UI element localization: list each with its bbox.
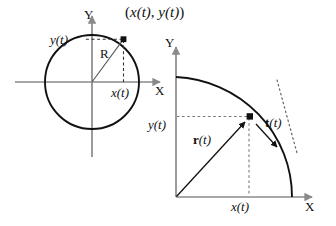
- left-panel-group: [15, 16, 160, 157]
- left-point-x-text: x(t): [130, 4, 151, 20]
- right-axis-y-label: Y: [165, 36, 174, 49]
- left-point-marker: [121, 36, 127, 42]
- left-point-coordinate-label: (x(t), y(t)): [125, 5, 184, 20]
- left-axis-y-label: Y: [84, 8, 93, 21]
- right-point-marker: [247, 113, 253, 119]
- figure-root: Y X (x(t), y(t)) y(t) R x(t) Y X y(t) x(…: [0, 0, 336, 226]
- left-y-projection-label: y(t): [50, 33, 68, 46]
- left-point-y-text: y(t): [158, 4, 179, 20]
- tangent-vector-arg: (t): [269, 115, 281, 130]
- right-axis-x-label: X: [305, 200, 314, 213]
- position-vector-arg: (t): [199, 132, 211, 147]
- left-x-projection-label: x(t): [111, 86, 129, 99]
- tangent-vector-label: t(t): [265, 116, 282, 129]
- radius-label: R: [100, 47, 109, 60]
- left-axis-x-label: X: [155, 84, 164, 97]
- right-y-projection-label: y(t): [148, 118, 166, 131]
- right-panel-group: [176, 47, 312, 197]
- right-x-projection-label: x(t): [231, 200, 249, 213]
- position-vector-label: r(t): [193, 133, 211, 146]
